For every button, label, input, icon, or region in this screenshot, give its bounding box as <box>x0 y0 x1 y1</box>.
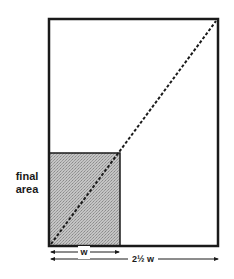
final-area-label-line1: final <box>8 170 46 183</box>
proportion-diagram: final area w 2½ w <box>0 0 234 279</box>
two-and-half-w-label: 2½ w <box>128 253 158 266</box>
final-area-label: final area <box>8 170 46 196</box>
arrowhead-left-icon <box>50 250 55 254</box>
final-area-label-line2: area <box>8 183 46 196</box>
arrowhead-left-icon <box>50 257 55 261</box>
diagonal-line <box>51 21 216 244</box>
w-label: w <box>78 246 90 259</box>
arrowhead-right-icon <box>214 257 219 261</box>
diagram-svg <box>0 0 234 279</box>
arrowhead-right-icon <box>115 250 120 254</box>
